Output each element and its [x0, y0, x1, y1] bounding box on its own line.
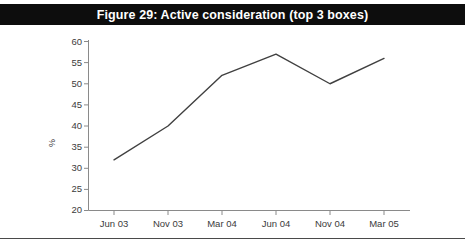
figure-container: Figure 29: Active consideration (top 3 b… — [0, 0, 465, 248]
chart-plot-area: % 60 55 50 45 40 35 30 25 20 Jun 03 Nov … — [0, 25, 465, 225]
figure-bottom-rule — [0, 238, 465, 239]
data-series-line — [114, 54, 384, 160]
chart-svg — [0, 25, 465, 225]
x-tick-marks — [114, 211, 384, 216]
y-tick-marks — [84, 42, 89, 211]
figure-title-banner: Figure 29: Active consideration (top 3 b… — [0, 4, 465, 25]
page-title: Figure 29: Active consideration (top 3 b… — [97, 8, 368, 22]
